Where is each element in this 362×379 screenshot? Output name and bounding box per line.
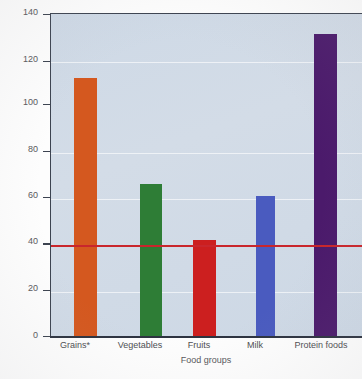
y-tick-mark-100 (43, 104, 50, 105)
x-tick-label-fruits: Fruits (169, 340, 229, 350)
x-axis-title: Food groups (50, 355, 362, 365)
y-tick-mark-120 (43, 61, 50, 62)
y-tick-mark-80 (43, 151, 50, 152)
y-tick-label-100: 100 (0, 97, 38, 107)
x-tick-label-milk: Milk (235, 340, 275, 350)
y-tick-label-140: 140 (0, 7, 38, 17)
x-axis-line (50, 336, 362, 338)
bar-fruits[interactable] (193, 240, 216, 337)
bar-vegetables[interactable] (140, 184, 162, 337)
y-tick-label-80: 80 (0, 144, 38, 154)
y-tick-label-0: 0 (0, 330, 38, 340)
x-tick-label-vegetables: Vegetables (104, 340, 176, 350)
y-tick-label-120: 120 (0, 54, 38, 64)
y-tick-mark-20 (43, 290, 50, 291)
x-tick-label-protein-foods: Protein foods (282, 340, 360, 350)
bar-protein-foods[interactable] (314, 34, 337, 337)
y-tick-mark-140 (43, 14, 50, 15)
y-tick-mark-60 (43, 197, 50, 198)
x-tick-label-grains: Grains* (40, 340, 110, 350)
y-tick-label-20: 20 (0, 283, 38, 293)
bar-chart-figure: Percentage of recommended amounts consum… (0, 0, 362, 379)
recommended-amount-reference-line (51, 245, 362, 247)
y-tick-mark-40 (43, 243, 50, 244)
y-tick-label-40: 40 (0, 236, 38, 246)
plot-area (50, 13, 362, 337)
y-tick-mark-0 (43, 336, 50, 337)
bar-milk[interactable] (256, 196, 275, 337)
y-tick-label-60: 60 (0, 190, 38, 200)
bar-grains[interactable] (74, 78, 97, 337)
